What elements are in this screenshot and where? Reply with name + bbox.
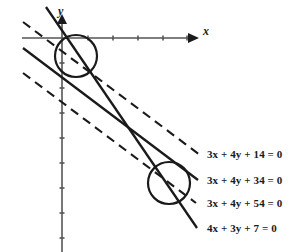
figure-canvas — [0, 0, 297, 252]
line-4x-3y-7 — [46, 7, 197, 228]
line-3x-4y-14 — [23, 22, 200, 155]
line-3x-4y-34 — [23, 48, 198, 180]
y-axis-label: y — [58, 4, 63, 19]
line-3x-4y-54 — [23, 73, 196, 203]
equation-label-line-4x-3y-7: 4x + 3y + 7 = 0 — [207, 222, 277, 234]
equation-label-line-3x-4y-34: 3x + 4y + 34 = 0 — [207, 174, 282, 186]
equation-label-line-3x-4y-54: 3x + 4y + 54 = 0 — [207, 197, 282, 209]
x-axis-label: x — [203, 24, 209, 39]
x-axis-arrow-icon — [188, 33, 199, 43]
lines-group — [23, 7, 200, 228]
geometry-figure: x y 3x + 4y + 14 = 03x + 4y + 34 = 03x +… — [0, 0, 297, 252]
equation-label-line-3x-4y-14: 3x + 4y + 14 = 0 — [207, 148, 282, 160]
